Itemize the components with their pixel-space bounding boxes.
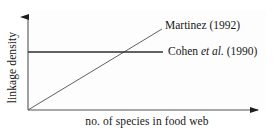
x-axis-label: no. of species in food web — [28, 115, 266, 127]
series-label-cohen: Cohen et al. (1990) — [168, 45, 257, 57]
series-label-martinez-year: (1992) — [209, 19, 240, 31]
series-label-cohen-name: Cohen — [168, 45, 198, 57]
y-axis-label-text: linkage density — [6, 32, 18, 103]
x-axis-label-text: no. of species in food web — [85, 115, 208, 127]
series-label-cohen-etal: et al. — [201, 45, 224, 57]
series-label-martinez: Martinez (1992) — [165, 19, 240, 31]
figure-container: linkage density no. of species in food w… — [0, 0, 276, 135]
series-label-cohen-year: (1990) — [227, 45, 258, 57]
series-label-martinez-name: Martinez — [165, 19, 207, 31]
y-axis-label: linkage density — [0, 0, 26, 135]
